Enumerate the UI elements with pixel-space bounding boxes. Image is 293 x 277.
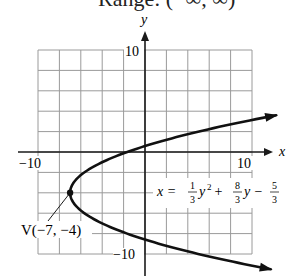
- y-axis-arrow-icon: [141, 31, 149, 41]
- eq-frac1-den: 3: [190, 194, 195, 205]
- x-axis-label: x: [278, 144, 286, 159]
- figure: Range: (−∞, ∞) x y −10 10 10 −10 x = 1 3…: [0, 0, 293, 277]
- y-tick-label-neg10: −10: [113, 247, 135, 262]
- vertex-point: [67, 190, 73, 196]
- eq-y1: y: [197, 184, 206, 199]
- parabola-chart: x y −10 10 10 −10 x = 1 3 y 2 + 8 3 y − …: [0, 0, 293, 277]
- x-axis-arrow-icon: [264, 148, 273, 156]
- y-axis-label: y: [139, 12, 148, 27]
- eq-minus: −: [251, 184, 266, 199]
- eq-frac3-num: 5: [272, 180, 277, 191]
- eq-frac2-num: 8: [235, 180, 240, 191]
- eq-y2: y: [242, 184, 251, 199]
- eq-x: x =: [156, 184, 176, 199]
- x-tick-label-neg10: −10: [19, 156, 41, 171]
- eq-plus: +: [211, 184, 226, 199]
- eq-frac2-den: 3: [235, 194, 240, 205]
- vertex-label: V(−7, −4): [21, 222, 81, 239]
- y-tick-label-10: 10: [125, 44, 139, 59]
- x-tick-label-10: 10: [237, 156, 251, 171]
- eq-frac3-den: 3: [272, 194, 277, 205]
- eq-frac1-num: 1: [190, 180, 195, 191]
